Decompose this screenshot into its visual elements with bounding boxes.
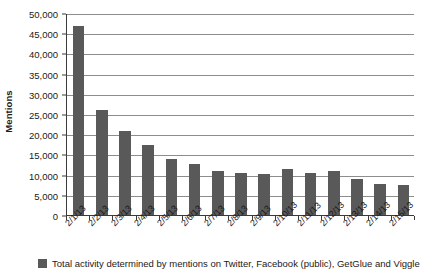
bar xyxy=(119,131,131,215)
bar-slot xyxy=(322,13,345,215)
bar-chart: Mentions 50,00045,00040,00035,00030,0002… xyxy=(0,0,435,276)
plot-area xyxy=(66,14,414,216)
bar-slot xyxy=(392,13,415,215)
bar xyxy=(96,110,108,215)
legend-swatch-icon xyxy=(38,259,47,268)
y-axis-tick-label: 45,000 xyxy=(29,29,58,40)
y-axis-tick-label: 50,000 xyxy=(29,9,58,20)
y-axis-tick-label: 35,000 xyxy=(29,69,58,80)
bar-slot xyxy=(253,13,276,215)
bar-slot xyxy=(90,13,113,215)
bar-slot xyxy=(299,13,322,215)
x-axis-tick-mark xyxy=(414,216,415,220)
bars-layer xyxy=(67,14,414,215)
bar-slot xyxy=(113,13,136,215)
bar-slot xyxy=(160,13,183,215)
bar-slot xyxy=(369,13,392,215)
y-axis-title: Mentions xyxy=(0,0,16,222)
x-axis-tick-labels: 2/1/132/2/132/3/132/4/132/5/132/6/132/7/… xyxy=(66,221,414,255)
bar-slot xyxy=(276,13,299,215)
bar-slot xyxy=(345,13,368,215)
y-axis-tick-label: 25,000 xyxy=(29,110,58,121)
bar-slot xyxy=(206,13,229,215)
y-axis-tick-label: 20,000 xyxy=(29,130,58,141)
bar-slot xyxy=(67,13,90,215)
bar-slot xyxy=(137,13,160,215)
bar xyxy=(73,26,85,215)
y-axis-tick-label: 10,000 xyxy=(29,170,58,181)
y-axis-tick-labels: 50,00045,00040,00035,00030,00025,00020,0… xyxy=(16,14,62,216)
y-axis-tick-label: 5,000 xyxy=(34,190,58,201)
y-axis-tick-label: 15,000 xyxy=(29,150,58,161)
y-axis-tick-label: 40,000 xyxy=(29,49,58,60)
y-axis-tick-label: 30,000 xyxy=(29,89,58,100)
y-axis-title-label: Mentions xyxy=(3,90,14,133)
bar-slot xyxy=(183,13,206,215)
bar-slot xyxy=(229,13,252,215)
y-axis-tick-label: 0 xyxy=(53,211,58,222)
chart-legend: Total activity determined by mentions on… xyxy=(38,258,420,269)
legend-series-label: Total activity determined by mentions on… xyxy=(52,258,420,269)
